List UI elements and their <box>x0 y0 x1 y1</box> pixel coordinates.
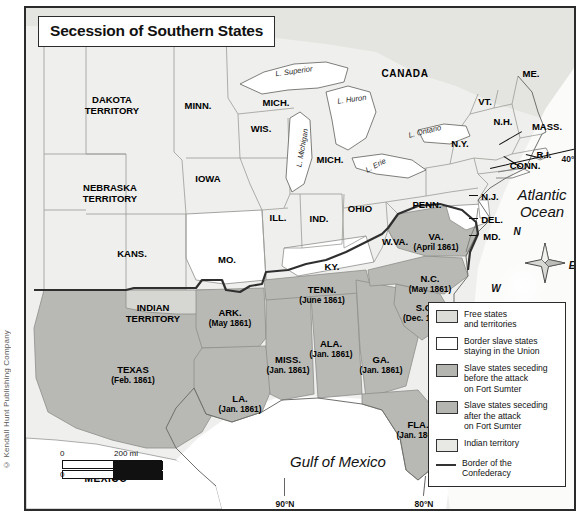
legend-confederacy-border-label: Border of theConfederacy <box>462 458 512 479</box>
legend-indian-territory-label: Indian territory <box>464 438 519 448</box>
legend-free-states-swatch <box>436 310 458 323</box>
fill-missouri <box>186 210 266 284</box>
legend-indian-territory: Indian territory <box>436 438 559 452</box>
leader-line-maryland <box>469 235 478 236</box>
legend-seceded-after-sumter: Slave states secedingafter the attackon … <box>436 400 559 431</box>
legend-border-slave-states: Border slave statesstaying in the Union <box>436 336 559 357</box>
legend-seceded-before-sumter: Slave states secedingbefore the attackon… <box>436 363 559 394</box>
fill-mississippi <box>266 284 314 400</box>
legend-border-slave-states-swatch <box>436 337 458 350</box>
scale-bar: 0 200 mi 0 300 km <box>62 460 182 480</box>
copyright-notice: © Kendall Hunt Publishing Company <box>2 330 16 469</box>
scale-miles-zero: 0 <box>60 449 64 458</box>
scale-miles-label: 200 mi <box>114 449 138 458</box>
scale-miles-bar <box>62 460 182 469</box>
scale-km-zero: 0 <box>60 470 64 479</box>
fill-louisiana <box>194 346 272 422</box>
longitude-tick-90n <box>284 478 285 496</box>
compass-rose <box>522 240 568 286</box>
map-legend: Free statesand territoriesBorder slave s… <box>428 302 566 487</box>
legend-confederacy-border: Border of theConfederacy <box>436 458 559 479</box>
leader-line-delaware <box>469 218 478 219</box>
legend-indian-territory-swatch <box>436 439 458 452</box>
scale-km-label: 300 km <box>114 470 140 479</box>
legend-seceded-after-sumter-swatch <box>436 401 458 414</box>
map-title: Secession of Southern States <box>38 16 275 47</box>
leader-line-new-jersey <box>469 195 478 196</box>
legend-seceded-before-sumter-label: Slave states secedingbefore the attackon… <box>464 363 548 394</box>
legend-confederacy-border-swatch <box>436 459 456 470</box>
map-figure: © Kendall Hunt Publishing Company <box>0 0 582 521</box>
legend-free-states: Free statesand territories <box>436 309 559 330</box>
map-frame: Secession of Southern States CANADAMEXIC… <box>24 6 576 511</box>
legend-border-slave-states-label: Border slave statesstaying in the Union <box>464 336 539 357</box>
legend-seceded-before-sumter-swatch <box>436 364 458 377</box>
fill-alabama <box>310 280 362 398</box>
legend-seceded-after-sumter-label: Slave states secedingafter the attackon … <box>464 400 548 431</box>
fill-arkansas <box>196 288 266 348</box>
legend-free-states-label: Free statesand territories <box>464 309 517 330</box>
